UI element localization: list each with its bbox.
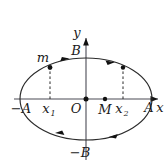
point-m-marker — [48, 65, 53, 70]
label-x1-subscript: 1 — [50, 109, 55, 118]
origin-point-marker — [84, 97, 89, 102]
point-mirror-marker — [121, 65, 125, 69]
label-B-positive: B — [70, 43, 81, 58]
motion-arrow-lower-left-icon — [55, 130, 64, 135]
label-M: M — [97, 102, 112, 117]
label-x1: x — [42, 101, 50, 116]
label-B-negative: −B — [70, 145, 90, 160]
origin-label: O — [71, 101, 82, 116]
label-m-particle: m — [37, 50, 49, 65]
label-A-negative: −A — [11, 101, 31, 116]
figure-canvas: y B −B x A −A O M x 1 x 2 m — [0, 0, 168, 168]
label-A-positive: A — [143, 100, 153, 115]
label-x2: x — [115, 101, 123, 116]
x-axis-label: x — [156, 100, 164, 115]
y-axis-label: y — [72, 25, 81, 40]
label-x2-subscript: 2 — [122, 109, 128, 118]
point-M-marker — [103, 97, 107, 101]
y-axis-arrowhead — [83, 38, 89, 46]
ellipse-figure: y B −B x A −A O M x 1 x 2 m — [0, 0, 168, 168]
